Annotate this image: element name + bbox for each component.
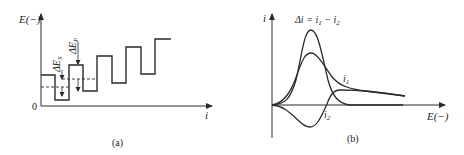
origin-label: 0 <box>32 101 37 112</box>
y-axis-label-b: i <box>263 12 266 24</box>
delta-i-label: Δi = i1 − i2 <box>294 14 340 27</box>
x-axis-label-a: i <box>205 109 208 121</box>
diagram-canvas: E(−) 0 i ΔES ΔEP (a) i E(−) Δi = i1 − i2… <box>0 0 464 155</box>
panel-a: E(−) 0 i ΔES ΔEP (a) <box>18 13 212 149</box>
caption-b: (b) <box>347 133 359 145</box>
i2-label: i2 <box>324 109 331 122</box>
i1-curve <box>272 53 405 105</box>
i2-curve <box>272 90 405 127</box>
y-axis-label-a: E(−) <box>18 13 41 26</box>
caption-a: (a) <box>112 137 123 149</box>
x-axis-label-b: E(−) <box>426 110 449 123</box>
panel-b: i E(−) Δi = i1 − i2 i1 i2 (b) <box>263 12 449 145</box>
i1-label: i1 <box>343 73 349 86</box>
